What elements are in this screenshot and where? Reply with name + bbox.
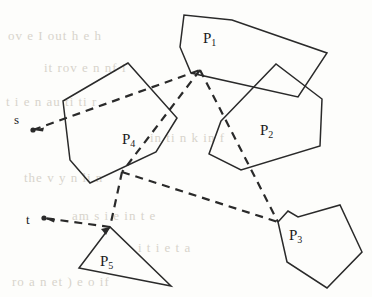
obstacle-polygons [63, 15, 362, 288]
obstacle-label-subscript: 1 [211, 37, 216, 48]
obstacle-label-p4: P4 [122, 132, 135, 149]
obstacle-label-subscript: 4 [130, 138, 135, 149]
obstacle-label-subscript: 3 [297, 234, 302, 245]
obstacle-polygon-p4 [63, 63, 177, 183]
terminal-label-t: t [26, 213, 30, 226]
obstacle-polygon-p3 [278, 205, 362, 288]
path-segment-v1-to-v2 [122, 70, 200, 172]
terminal-marker-t [41, 215, 55, 222]
obstacle-label-subscript: 2 [268, 129, 273, 140]
obstacle-label-subscript: 5 [108, 260, 113, 271]
obstacle-label-p2: P2 [260, 123, 273, 140]
obstacle-label-p1: P1 [203, 31, 216, 48]
obstacle-polygon-p2 [209, 64, 322, 170]
obstacle-polygon-p5 [79, 227, 171, 286]
obstacle-label-p3: P3 [289, 228, 302, 245]
terminal-markers [30, 127, 110, 235]
obstacle-polygon-p1 [180, 15, 327, 97]
path-segment-v2-to-apex [110, 172, 122, 227]
obstacle-label-p5: P5 [100, 254, 113, 271]
figure-canvas: ov e I out h e hit rov e n nf it i e n a… [0, 0, 372, 297]
path-segment-v2-to-P3-corner [122, 172, 278, 222]
terminal-label-s: s [14, 113, 19, 126]
path-arrowhead-apex [101, 227, 110, 235]
diagram-svg [0, 0, 372, 297]
